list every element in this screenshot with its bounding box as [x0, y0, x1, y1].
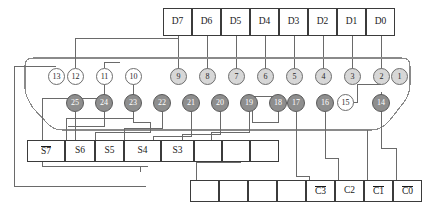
pin-label: 12	[72, 73, 80, 81]
pin-5[interactable]: 5	[286, 68, 303, 85]
control-cell	[248, 180, 277, 202]
pin-22[interactable]: 22	[153, 94, 171, 112]
status-cell-label: S5	[104, 146, 114, 156]
pin-label: 22	[158, 99, 166, 107]
pin-13[interactable]: 13	[48, 68, 65, 85]
pin-11[interactable]: 11	[96, 68, 113, 85]
control-cell	[277, 180, 306, 202]
control-cell-label: C0	[402, 186, 413, 197]
pin-label: 3	[351, 73, 355, 81]
pin-label: 13	[53, 73, 61, 81]
data-cell: D2	[308, 8, 337, 36]
pin-4[interactable]: 4	[315, 68, 332, 85]
pin-25[interactable]: 25	[66, 94, 84, 112]
pin-label: 5	[293, 73, 297, 81]
pin-label: 19	[245, 99, 253, 107]
pin-label: 8	[206, 73, 210, 81]
status-cell-label: S6	[75, 146, 85, 156]
pin-label: 1	[398, 73, 402, 81]
control-cell: C1	[364, 180, 393, 202]
data-cell-label: D6	[201, 17, 213, 27]
status-cell: S7	[27, 140, 65, 162]
pin-label: 23	[129, 99, 137, 107]
status-cell	[250, 140, 279, 162]
data-cell-label: D5	[230, 17, 242, 27]
pin-label: 25	[71, 99, 79, 107]
control-cell: C2	[335, 180, 364, 202]
pin-label: 6	[264, 73, 268, 81]
data-cell-label: D4	[259, 17, 271, 27]
pin-label: 16	[321, 99, 329, 107]
data-cell: D6	[192, 8, 221, 36]
data-cell-label: D0	[375, 17, 387, 27]
pin-15[interactable]: 15	[337, 94, 354, 111]
data-cell: D1	[337, 8, 366, 36]
status-cell-label: S3	[172, 146, 182, 156]
data-cell-label: D3	[288, 17, 300, 27]
status-cell: S4	[124, 140, 161, 162]
control-cell	[190, 180, 219, 202]
status-cell	[194, 140, 222, 162]
data-cell: D5	[221, 8, 250, 36]
status-cell: S6	[65, 140, 95, 162]
pin-12[interactable]: 12	[67, 68, 84, 85]
data-cell: D3	[279, 8, 308, 36]
pin-8[interactable]: 8	[199, 68, 216, 85]
control-cell: C0	[393, 180, 422, 202]
status-cell-label: S7	[41, 146, 51, 157]
status-cell: S3	[161, 140, 194, 162]
pin-label: 7	[235, 73, 239, 81]
control-cell-label: C2	[344, 186, 355, 196]
control-cell-label: C3	[315, 186, 326, 197]
pin-16[interactable]: 16	[316, 94, 334, 112]
pin-7[interactable]: 7	[228, 68, 245, 85]
pin-9[interactable]: 9	[170, 68, 187, 85]
data-cell: D4	[250, 8, 279, 36]
pin-18[interactable]: 18	[269, 94, 287, 112]
pin-10[interactable]: 10	[125, 68, 142, 85]
pin-label: 21	[187, 99, 195, 107]
pin-24[interactable]: 24	[95, 94, 113, 112]
status-cell-label: S4	[137, 146, 147, 156]
pin-label: 9	[177, 73, 181, 81]
status-cell: S5	[95, 140, 124, 162]
control-cell: C3	[306, 180, 335, 202]
pin-label: 18	[274, 99, 282, 107]
pin-label: 17	[292, 99, 300, 107]
pin-20[interactable]: 20	[211, 94, 229, 112]
pin-14[interactable]: 14	[372, 94, 390, 112]
pin-21[interactable]: 21	[182, 94, 200, 112]
connector-pinout-diagram: D7 D6 D5 D4 D3 D2 D1 D0 13 12 11 10 9 8 …	[0, 0, 431, 211]
pin-label: 14	[377, 99, 385, 107]
control-cell-label: C1	[373, 186, 384, 197]
data-cell: D7	[163, 8, 192, 36]
pin-label: 10	[130, 73, 138, 81]
control-cell	[219, 180, 248, 202]
pin-label: 2	[380, 73, 384, 81]
pin-label: 11	[101, 73, 109, 81]
pin-label: 24	[100, 99, 108, 107]
pin-label: 15	[342, 99, 350, 107]
pin-23[interactable]: 23	[124, 94, 142, 112]
pin-2[interactable]: 2	[373, 68, 390, 85]
data-cell-label: D7	[172, 17, 184, 27]
data-cell-label: D1	[346, 17, 358, 27]
pin-19[interactable]: 19	[240, 94, 258, 112]
pin-label: 4	[322, 73, 326, 81]
data-cell-label: D2	[317, 17, 329, 27]
status-cell	[222, 140, 250, 162]
pin-17[interactable]: 17	[287, 94, 305, 112]
pin-label: 20	[216, 99, 224, 107]
pin-3[interactable]: 3	[344, 68, 361, 85]
pin-1[interactable]: 1	[391, 68, 408, 85]
pin-6[interactable]: 6	[257, 68, 274, 85]
data-cell: D0	[366, 8, 395, 36]
